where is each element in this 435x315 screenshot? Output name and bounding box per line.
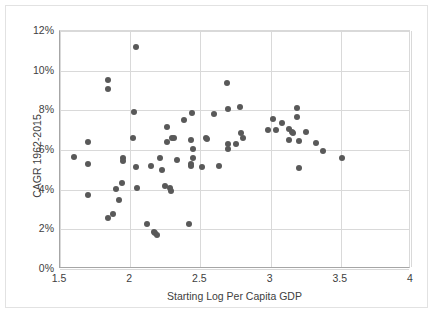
data-point (320, 148, 326, 154)
data-point (190, 146, 196, 152)
data-point (105, 215, 111, 221)
data-point (224, 80, 230, 86)
data-point (240, 135, 246, 141)
data-point (164, 124, 170, 130)
x-tick-label: 4 (407, 272, 413, 284)
data-point (286, 137, 292, 143)
y-tick-label: 12% (33, 24, 54, 36)
data-point (273, 127, 279, 133)
data-point (130, 135, 136, 141)
gridline-x-2-5 (200, 31, 201, 267)
x-tick-label: 3.5 (332, 272, 347, 284)
data-point (294, 114, 300, 120)
data-point (204, 136, 210, 142)
data-point (190, 155, 196, 161)
scatter-chart-figure: CAGR 1962-2015 0%2%4%6%8%10%12% 1.522.53… (0, 0, 435, 315)
data-point (148, 163, 154, 169)
data-point (189, 110, 195, 116)
data-point (237, 104, 243, 110)
gridline-y-8 (60, 110, 409, 111)
data-point (339, 155, 345, 161)
data-point (159, 167, 165, 173)
data-point (171, 135, 177, 141)
data-point (265, 127, 271, 133)
gridline-x-3 (271, 31, 272, 267)
gridline-y-12 (60, 31, 409, 32)
data-point (296, 165, 302, 171)
data-point (120, 158, 126, 164)
y-tick-label: 8% (39, 103, 54, 115)
data-point (181, 117, 187, 123)
data-point (199, 164, 205, 170)
gridline-x-2 (130, 31, 131, 267)
data-point (168, 188, 174, 194)
x-tick-label: 2.5 (192, 272, 207, 284)
data-point (188, 137, 194, 143)
data-point (110, 211, 116, 217)
x-axis-tick-labels: 1.522.533.54 (59, 272, 410, 288)
data-point (113, 186, 119, 192)
data-point (225, 106, 231, 112)
data-point (186, 221, 192, 227)
data-point (133, 44, 139, 50)
x-tick-label: 2 (126, 272, 132, 284)
data-point (85, 139, 91, 145)
data-point (313, 140, 319, 146)
gridline-x-1-5 (60, 31, 61, 267)
gridline-y-10 (60, 71, 409, 72)
data-point (174, 157, 180, 163)
data-point (296, 138, 302, 144)
gridline-y-0 (60, 269, 409, 270)
data-point (71, 154, 77, 160)
data-point (211, 111, 217, 117)
y-tick-label: 4% (39, 183, 54, 195)
gridline-x-4 (411, 31, 412, 267)
plot-area (59, 30, 410, 268)
data-point (154, 232, 160, 238)
data-point (144, 221, 150, 227)
data-point (270, 116, 276, 122)
data-point (290, 130, 296, 136)
data-point (157, 155, 163, 161)
data-point (303, 129, 309, 135)
x-tick-label: 1.5 (52, 272, 67, 284)
data-point (105, 77, 111, 83)
data-point (133, 164, 139, 170)
x-axis-title: Starting Log Per Capita GDP (59, 290, 410, 302)
y-tick-label: 10% (33, 64, 54, 76)
data-point (85, 192, 91, 198)
y-axis-tick-labels: 0%2%4%6%8%10%12% (0, 30, 54, 268)
data-point (116, 197, 122, 203)
gridline-y-2 (60, 229, 409, 230)
data-point (131, 109, 137, 115)
gridline-x-3-5 (341, 31, 342, 267)
data-point (279, 120, 285, 126)
data-point (233, 141, 239, 147)
data-point (85, 161, 91, 167)
data-point (105, 86, 111, 92)
data-point (119, 180, 125, 186)
y-tick-label: 6% (39, 143, 54, 155)
gridline-y-6 (60, 150, 409, 151)
data-point (216, 163, 222, 169)
data-point (225, 146, 231, 152)
x-tick-label: 3 (267, 272, 273, 284)
data-point (188, 163, 194, 169)
y-tick-label: 2% (39, 222, 54, 234)
